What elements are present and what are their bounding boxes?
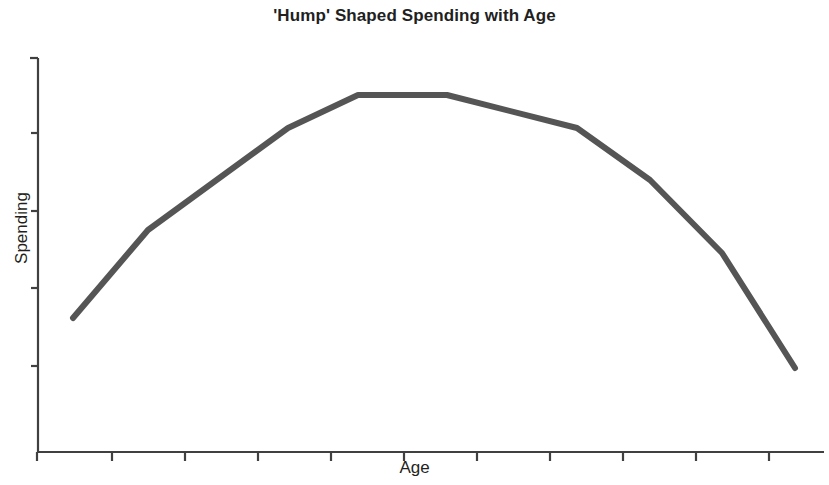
y-axis-ticks: [30, 58, 38, 366]
spending-curve: [73, 95, 795, 368]
plot-area: [0, 0, 829, 485]
chart-screenshot: 'Hump' Shaped Spending with Age Spending…: [0, 0, 829, 485]
x-axis-ticks: [37, 452, 769, 461]
